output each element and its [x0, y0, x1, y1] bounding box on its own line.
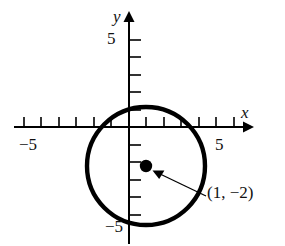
y-axis-arrowhead — [124, 11, 135, 22]
y-axis-label: y — [113, 8, 121, 25]
x-axis-arrowhead — [243, 122, 254, 133]
x-axis — [14, 122, 254, 133]
graph-svg — [0, 0, 285, 246]
center-point-label: (1, −2) — [207, 184, 253, 201]
x-axis-label: x — [241, 104, 249, 121]
annotation-arrow — [153, 170, 207, 196]
y-tick-label-neg5: −5 — [105, 218, 123, 235]
x-tick-label-5: 5 — [215, 136, 224, 153]
figure-canvas: y x 5 −5 −5 5 (1, −2) — [0, 0, 285, 246]
center-point-marker — [140, 160, 152, 172]
y-tick-label-5: 5 — [107, 30, 116, 47]
x-tick-label-neg5: −5 — [19, 136, 37, 153]
